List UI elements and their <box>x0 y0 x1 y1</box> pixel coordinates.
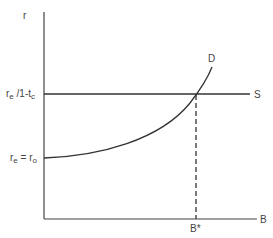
demand-label: D <box>208 53 215 64</box>
equilibrium-quantity-label: B* <box>190 223 201 234</box>
x-axis-label: B <box>260 214 267 225</box>
upper-rate-label: re /1-tc <box>6 88 35 101</box>
demand-curve <box>44 67 212 158</box>
lower-rate-label: re = ro <box>10 152 38 165</box>
supply-label: S <box>254 89 261 100</box>
y-axis-label: r <box>23 10 27 21</box>
diagram-canvas: r re /1-tc re = ro S D B* B <box>0 0 273 238</box>
